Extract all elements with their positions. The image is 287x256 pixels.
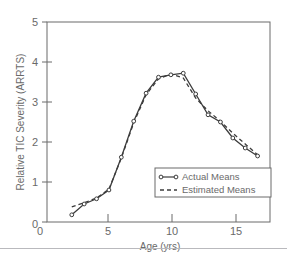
x-axis-ticks [108, 214, 236, 222]
y-axis-title: Relative TIC Severity (ARRTS) [15, 54, 26, 191]
x-axis-title: Age (yrs) [140, 241, 181, 252]
legend-circle-marker-left [159, 175, 163, 179]
legend-circle-marker-right [174, 175, 178, 179]
data-point-marker [144, 91, 148, 95]
x-tick-label-15: 15 [230, 225, 242, 237]
y-tick-label-1: 1 [32, 176, 38, 188]
scan-artifact-rule-bottom [0, 248, 287, 249]
data-point-marker [169, 73, 173, 77]
chart-figure: 5 4 3 2 1 0 0 5 10 15 Age (yrs) Relative… [0, 0, 287, 256]
data-point-marker [206, 113, 210, 117]
legend-label-actual-means: Actual Means [182, 171, 240, 182]
data-point-marker [95, 197, 99, 201]
y-tick-label-3: 3 [32, 96, 38, 108]
y-tick-label-5: 5 [32, 16, 38, 28]
data-point-marker [70, 213, 74, 217]
data-point-marker [243, 146, 247, 150]
tic-severity-line-chart: 5 4 3 2 1 0 0 5 10 15 Age (yrs) Relative… [0, 0, 287, 256]
data-point-marker [181, 71, 185, 75]
chart-legend: Actual Means Estimated Means [155, 168, 271, 197]
data-point-marker [119, 155, 123, 159]
legend-label-estimated-means: Estimated Means [182, 184, 256, 195]
data-point-marker [157, 75, 161, 79]
y-tick-label-2: 2 [32, 136, 38, 148]
x-tick-label-10: 10 [166, 225, 178, 237]
data-point-marker [194, 92, 198, 96]
data-point-marker [219, 120, 223, 124]
data-point-marker [256, 154, 260, 158]
data-point-marker [132, 119, 136, 123]
data-point-marker [82, 202, 86, 206]
data-point-marker [231, 136, 235, 140]
y-tick-label-4: 4 [32, 56, 38, 68]
data-point-marker [107, 188, 111, 192]
x-tick-label-0: 0 [37, 225, 43, 237]
x-tick-label-5: 5 [105, 225, 111, 237]
